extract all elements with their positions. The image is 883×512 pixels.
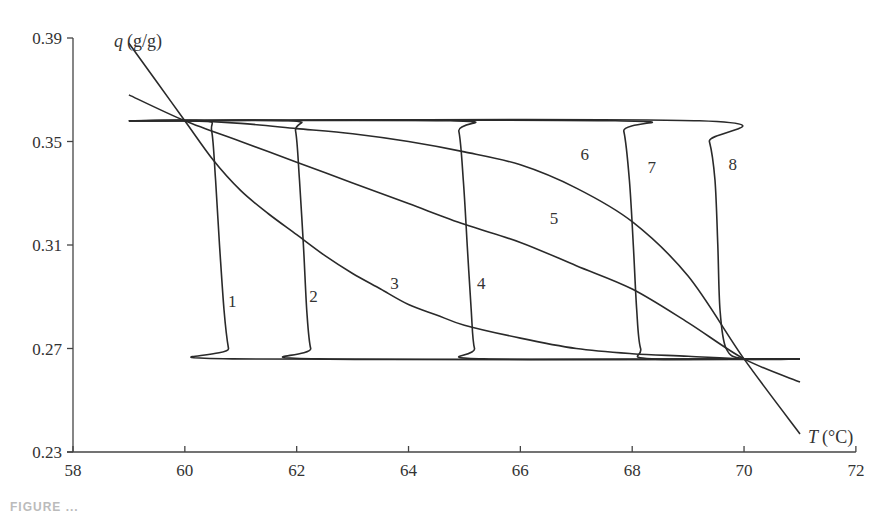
axes: 0.230.270.310.350.395860626466687072 [32,29,864,480]
curve-label-7: 7 [648,158,657,177]
curve-label-4: 4 [477,274,486,293]
curve-label-1: 1 [228,292,237,311]
curve-4 [129,120,800,360]
curve-labels: 12345678 [228,145,737,311]
curve-8 [129,119,800,359]
curve-1 [129,120,800,360]
x-tick-label: 68 [624,461,641,480]
y-tick-label: 0.23 [32,443,62,462]
x-tick-label: 62 [288,461,305,480]
x-tick-label: 60 [176,461,193,480]
curve-2 [129,120,800,360]
y-tick-label: 0.39 [32,29,62,48]
curves [129,43,800,434]
x-tick-label: 64 [400,461,418,480]
chart: 0.230.270.310.350.395860626466687072 123… [0,0,883,512]
y-tick-label: 0.27 [32,340,62,359]
curve-label-3: 3 [390,274,399,293]
curve-label-5: 5 [550,209,559,228]
y-tick-label: 0.31 [32,236,62,255]
figure-caption: FIGURE ... [10,500,79,512]
curve-5 [129,95,800,382]
curve-label-6: 6 [580,145,589,164]
x-tick-label: 58 [65,461,82,480]
curve-7 [129,120,800,360]
x-axis-title: T(°C) [808,427,853,448]
y-tick-label: 0.35 [32,133,62,152]
x-tick-label: 72 [847,461,864,480]
y-axis-title: q(g/g) [114,31,162,52]
x-tick-label: 66 [512,461,529,480]
curve-label-8: 8 [729,155,738,174]
curve-6 [129,121,800,434]
curve-label-2: 2 [309,287,318,306]
x-tick-label: 70 [736,461,753,480]
